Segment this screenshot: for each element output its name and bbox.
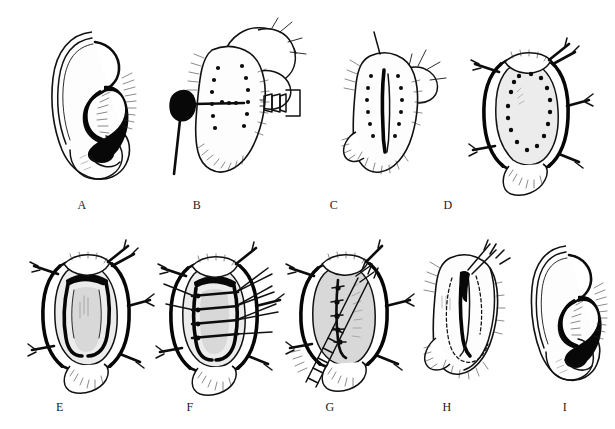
panel-d-cartilage-exposed — [455, 30, 595, 195]
panel-d-caption: D — [436, 198, 460, 213]
panel-e-caption: E — [48, 400, 72, 415]
figure-sheet: 耳廓整形术：沿耳后切口显露软骨并以褥式缝合塑造对耳轮 — [0, 0, 615, 429]
panel-b-caption: B — [185, 198, 209, 213]
header-text-fragment: 耳廓整形术：沿耳后切口显露软骨并以褥式缝合塑造对耳轮 — [0, 0, 615, 7]
panel-c-caption: C — [322, 198, 346, 213]
panel-h-skin-closure — [412, 240, 517, 390]
panel-f-mattress-sutures — [148, 234, 288, 392]
panel-g-sutures-tied — [282, 232, 417, 397]
panel-h-caption: H — [435, 400, 459, 415]
header-text: 耳廓整形术：沿耳后切口显露软骨并以褥式缝合塑造对耳轮 — [38, 0, 366, 1]
panel-b-postauricular-marking — [168, 24, 308, 194]
panel-e-cartilage-scored — [22, 236, 157, 391]
panel-a-normal-ear — [40, 26, 150, 191]
panel-a-caption: A — [70, 198, 94, 213]
panel-i-corrected-ear — [520, 240, 615, 390]
panel-c-incision-line — [322, 26, 447, 191]
panel-i-caption: I — [553, 400, 577, 415]
panel-f-caption: F — [178, 400, 202, 415]
panel-g-caption: G — [318, 400, 342, 415]
